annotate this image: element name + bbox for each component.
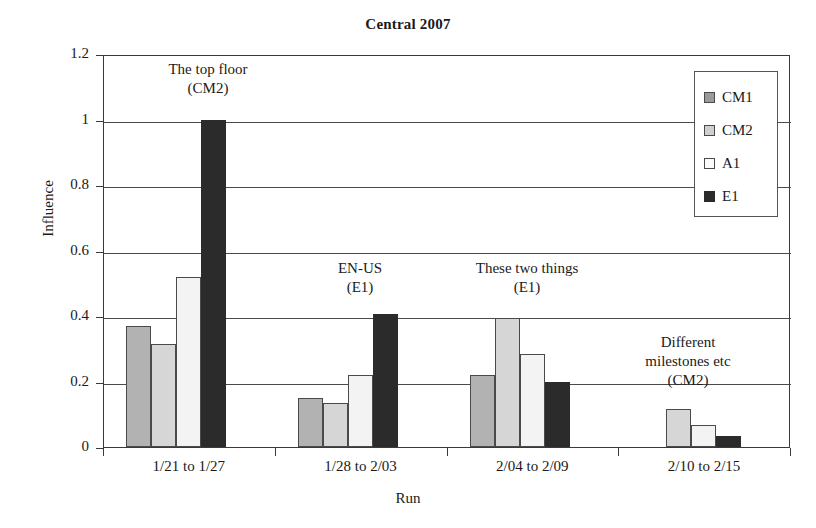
annotation-line-2: (E1) — [432, 278, 622, 297]
x-tick-mark — [275, 448, 276, 456]
legend-item-cm2: CM2 — [704, 114, 777, 147]
y-tick-mark — [96, 121, 103, 122]
annotation-line-2: milestones etc — [588, 352, 788, 371]
bar-cm1-2 — [298, 398, 323, 447]
legend-item-e1: E1 — [704, 180, 777, 213]
y-tick-label: 1 — [43, 111, 89, 128]
x-axis-title: Run — [0, 490, 816, 507]
y-tick-label: 0.6 — [43, 242, 89, 259]
legend-label: CM1 — [722, 89, 753, 106]
x-tick-mark — [447, 448, 448, 456]
bar-cm2-4 — [666, 409, 691, 447]
bar-a1-1 — [176, 277, 201, 447]
bar-a1-2 — [348, 375, 373, 447]
annotation-these-two-things: These two things (E1) — [432, 259, 622, 297]
y-tick-label: 0 — [43, 438, 89, 455]
y-tick-mark — [96, 252, 103, 253]
legend-swatch-icon — [704, 158, 715, 169]
x-tick-mark — [103, 448, 104, 456]
annotation-en-us: EN-US (E1) — [290, 259, 430, 297]
y-tick-label: 0.8 — [43, 176, 89, 193]
bar-cm1-3 — [470, 375, 495, 447]
bar-a1-4 — [691, 425, 716, 447]
bar-chart: Central 2007 Influence 00.20.40.60.811.2… — [0, 0, 816, 528]
y-tick-mark — [96, 55, 103, 56]
x-tick-label: 1/21 to 1/27 — [103, 458, 275, 475]
legend: CM1 CM2 A1 E1 — [694, 71, 778, 217]
y-tick-mark — [96, 317, 103, 318]
annotation-line-1: EN-US — [290, 259, 430, 278]
x-tick-label: 2/04 to 2/09 — [446, 458, 618, 475]
y-tick-mark — [96, 448, 103, 449]
bar-a1-3 — [520, 354, 545, 447]
bar-cm2-3 — [495, 318, 520, 447]
legend-label: E1 — [722, 188, 739, 205]
x-tick-mark — [618, 448, 619, 456]
y-tick-mark — [96, 383, 103, 384]
annotation-line-2: (E1) — [290, 278, 430, 297]
legend-swatch-icon — [704, 92, 715, 103]
x-tick-mark — [790, 448, 791, 456]
bar-cm2-1 — [151, 344, 176, 447]
legend-label: CM2 — [722, 122, 753, 139]
bar-e1-3 — [545, 382, 570, 448]
y-tick-mark — [96, 186, 103, 187]
annotation-line-1: These two things — [432, 259, 622, 278]
legend-item-a1: A1 — [704, 147, 777, 180]
bar-cm1-1 — [126, 326, 151, 447]
bar-e1-1 — [201, 120, 226, 448]
bar-cm2-2 — [323, 403, 348, 447]
annotation-different-milestones: Different milestones etc (CM2) — [588, 333, 788, 391]
annotation-line-3: (CM2) — [588, 371, 788, 390]
y-tick-label: 0.2 — [43, 373, 89, 390]
legend-label: A1 — [722, 155, 740, 172]
x-tick-label: 2/10 to 2/15 — [618, 458, 790, 475]
annotation-line-1: The top floor — [108, 60, 308, 79]
chart-title: Central 2007 — [0, 16, 816, 33]
legend-swatch-icon — [704, 125, 715, 136]
annotation-line-1: Different — [588, 333, 788, 352]
x-tick-label: 1/28 to 2/03 — [275, 458, 447, 475]
bar-e1-2 — [373, 314, 398, 447]
legend-swatch-icon — [704, 191, 715, 202]
y-tick-label: 0.4 — [43, 307, 89, 324]
annotation-top-floor: The top floor (CM2) — [108, 60, 308, 98]
legend-item-cm1: CM1 — [704, 81, 777, 114]
y-tick-label: 1.2 — [43, 45, 89, 62]
annotation-line-2: (CM2) — [108, 79, 308, 98]
bar-e1-4 — [716, 436, 741, 447]
